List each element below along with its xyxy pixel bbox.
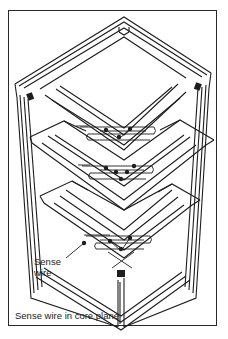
sense-wire-label: Sense wire [34, 256, 64, 278]
sense-wire-bottom [82, 235, 152, 268]
corner-block-left [26, 92, 34, 101]
corner-block-right [194, 82, 202, 91]
sense-wire-label-line1: Sense [34, 256, 64, 267]
sense-wire-leader [66, 243, 84, 258]
core-plane-stack-illustration [0, 0, 228, 339]
figure-caption: Sense wire in core plane [15, 310, 119, 321]
sense-wire-label-line2: wire [34, 267, 64, 278]
corner-block-bottom [117, 270, 125, 277]
support-frame [15, 17, 211, 330]
bottom-plane [40, 181, 200, 258]
